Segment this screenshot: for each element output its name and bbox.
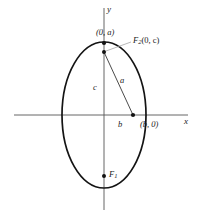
- segment-a-line: [104, 52, 133, 115]
- focus-upper-dot: [102, 50, 106, 54]
- vertex-top-dot: [102, 41, 106, 45]
- x-axis-label: x: [184, 117, 188, 126]
- vertex-top-label: (0, a): [96, 28, 114, 37]
- vertex-right-dot: [131, 113, 135, 117]
- focus-lower-label: F1: [109, 170, 117, 180]
- segment-c-label: c: [93, 83, 97, 92]
- focus-lower-label-subscript: 1: [114, 172, 117, 179]
- ellipse-figure: y x (0, a) F2(0, c) a c b (b, 0) F1: [0, 0, 200, 217]
- y-axis-label: y: [107, 5, 111, 14]
- focus-lower-dot: [102, 174, 106, 178]
- focus-upper-label-coords: (0, c): [141, 35, 159, 45]
- vertex-right-label: (b, 0): [140, 120, 158, 129]
- segment-b-label: b: [118, 120, 122, 129]
- segment-a-label: a: [120, 76, 124, 85]
- focus-upper-label: F2(0, c): [133, 36, 159, 46]
